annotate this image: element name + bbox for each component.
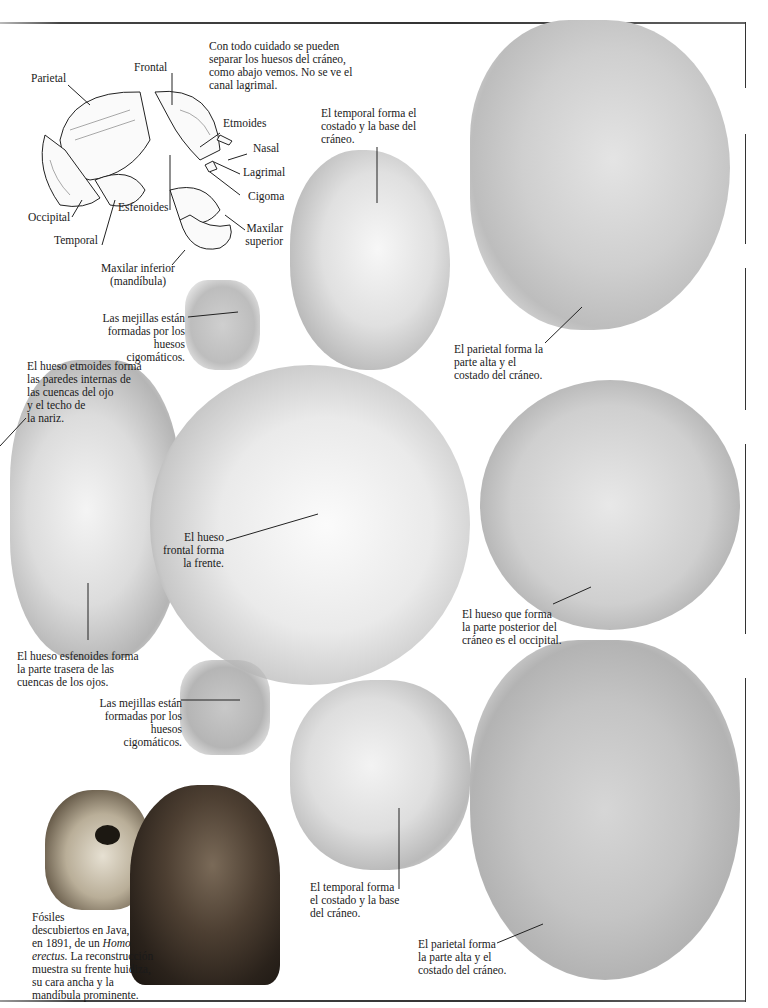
label-nasal: Nasal <box>253 142 279 155</box>
caption-parietal-top: El parietal forma la parte alta y el cos… <box>454 343 564 382</box>
label-temporal: Temporal <box>54 234 98 247</box>
label-frontal: Frontal <box>134 61 167 74</box>
caption-occipital: El hueso que forma la parte posterior de… <box>462 608 582 647</box>
caption-esfenoides: El hueso esfenoides forma la parte trase… <box>17 650 167 689</box>
label-lagrimal: Lagrimal <box>243 166 285 179</box>
label-occipital: Occipital <box>28 211 70 224</box>
label-parietal: Parietal <box>31 72 66 85</box>
label-etmoides: Etmoides <box>223 117 266 130</box>
label-cigoma: Cigoma <box>248 190 284 203</box>
caption-etmoides: El hueso etmoides forma las paredes inte… <box>27 360 167 425</box>
species-name-epithet: erectus. <box>32 950 68 962</box>
caption-temporal-top: El temporal forma el costado y la base d… <box>321 107 441 146</box>
species-name-genus: Homo <box>103 937 131 949</box>
label-esfenoides: Esfenoides <box>118 201 168 214</box>
caption-mejillas-bottom: Las mejillas están formadas por los hues… <box>94 697 182 749</box>
label-maxilar-inferior: Maxilar inferior (mandíbula) <box>100 262 176 288</box>
caption-parietal-bottom: El parietal forma la parte alta y el cos… <box>418 938 518 977</box>
caption-fossil: Fósiles descubiertos en Java, en 1891, d… <box>32 911 182 1002</box>
label-maxilar-superior: Maxilar superior <box>230 222 283 248</box>
intro-caption: Con todo cuidado se pueden separar los h… <box>209 40 389 92</box>
caption-temporal-bottom: El temporal forma el costado y la base d… <box>310 881 410 920</box>
caption-frontal: El hueso frontal forma la frente. <box>148 531 224 570</box>
caption-mejillas-top: Las mejillas están formadas por los hues… <box>95 312 185 364</box>
leader-lines <box>0 0 768 1008</box>
